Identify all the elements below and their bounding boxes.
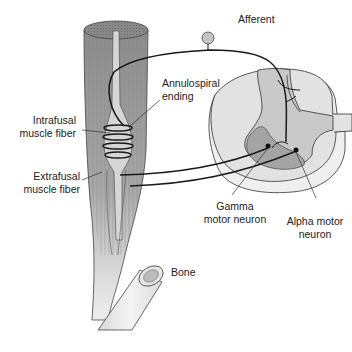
- label-extrafusal-muscle-fiber: Extrafusal muscle fiber: [16, 170, 80, 196]
- gamma-text-line2: motor neuron: [196, 213, 274, 226]
- label-gamma-motor-neuron: Gamma motor neuron: [196, 200, 274, 226]
- afferent-text: Afferent: [238, 13, 275, 26]
- alpha-text-line2: neuron: [280, 228, 350, 241]
- label-afferent: Afferent: [238, 13, 275, 26]
- label-annulospiral-ending: Annulospiral ending: [162, 77, 220, 103]
- label-alpha-motor-neuron: Alpha motor neuron: [280, 215, 350, 241]
- alpha-text-line1: Alpha motor: [280, 215, 350, 228]
- annulospiral-text-line2: ending: [162, 90, 220, 103]
- gamma-motor-neuron-body: [266, 144, 271, 149]
- label-bone: Bone: [171, 266, 196, 279]
- extrafusal-text-line2: muscle fiber: [16, 183, 80, 196]
- afferent-ganglion: [202, 32, 214, 44]
- gamma-text-line1: Gamma: [196, 200, 274, 213]
- spinal-cord-section: [209, 69, 352, 193]
- label-intrafusal-muscle-fiber: Intrafusal muscle fiber: [16, 114, 76, 140]
- annulospiral-text-line1: Annulospiral: [162, 77, 220, 90]
- dorsal-root: [332, 114, 352, 132]
- intrafusal-text-line1: Intrafusal: [16, 114, 76, 127]
- bone-text: Bone: [171, 266, 196, 279]
- alpha-motor-neuron-body: [294, 148, 299, 153]
- intrafusal-text-line2: muscle fiber: [16, 127, 76, 140]
- extrafusal-text-line1: Extrafusal: [16, 170, 80, 183]
